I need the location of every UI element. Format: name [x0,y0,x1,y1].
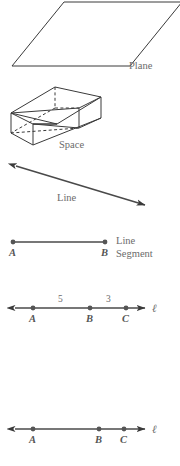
space-caption: Space [59,139,84,150]
segment-caption-line2: Segment [116,248,153,259]
prism-top-face [11,87,101,124]
plain-point-a-dot [31,427,36,432]
segment-point-b-label: B [100,247,108,258]
plain-point-b-label: B [94,434,102,445]
measured-point-c-label: C [122,313,130,324]
plain-point-c-dot [122,427,127,432]
measured-line-panel: A B C 5 3 ℓ [15,294,157,324]
geometry-figure-canvas: Plane Space [0,0,180,466]
geometry-figure-sheet: Plane Space [0,0,180,466]
measure-bc-value: 3 [106,294,111,304]
measure-ab-value: 5 [58,294,63,304]
segment-caption-line1: Line [116,235,136,246]
line-panel: Line [16,166,145,205]
segment-point-a-dot [11,240,16,245]
measured-line-name: ℓ [152,302,157,314]
prism-front-top-edge-helper [11,108,79,113]
measured-point-b-label: B [85,313,93,324]
segment-point-b-dot [103,240,108,245]
measured-point-b-dot [88,306,93,311]
plain-point-a-label: A [28,434,36,445]
plain-line-panel: A B C ℓ [15,423,157,445]
measured-point-a-dot [31,306,36,311]
plane-caption: Plane [129,60,153,71]
space-panel: Space [11,87,101,150]
plane-parallelogram [12,2,180,66]
plain-point-b-dot [97,427,102,432]
segment-point-a-label: A [8,247,16,258]
plane-panel: Plane [12,2,180,71]
prism-front-long-edge [33,124,79,128]
segment-panel: A B Line Segment [8,235,153,259]
measured-point-c-dot [124,306,129,311]
plain-line-name: ℓ [152,423,157,435]
prism-right-end-face [79,97,101,128]
line-caption: Line [57,192,77,203]
line-double-arrow [16,166,145,205]
plain-point-c-label: C [120,434,128,445]
measured-point-a-label: A [28,313,36,324]
